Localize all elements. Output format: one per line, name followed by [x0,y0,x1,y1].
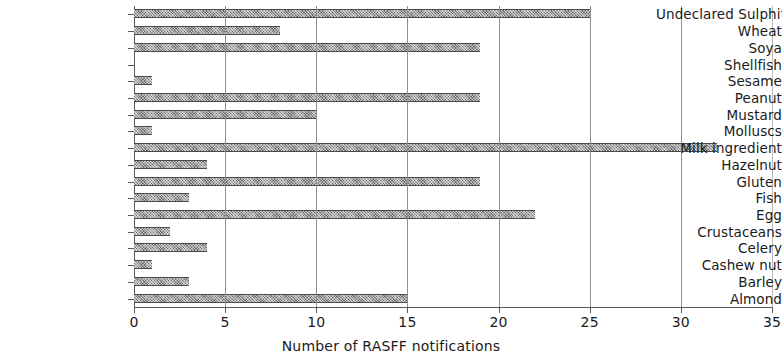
x-tick-mark-15 [407,307,408,313]
x-tick-label-30: 30 [672,314,690,330]
category-label-6: Mustard [656,108,782,122]
y-tick-mark-6 [128,115,134,116]
y-tick-mark-7 [128,131,134,132]
bar-9 [134,160,207,169]
bar-13 [134,227,170,236]
category-label-2: Soya [656,41,782,55]
bar-11 [134,193,189,202]
category-label-8: Milk ingredient [656,141,782,155]
category-label-13: Crustaceans [656,225,782,239]
category-label-14: Celery [656,241,782,255]
category-label-5: Peanut [656,91,782,105]
bar-chart: 05101520253035 Undeclared SulphiteWheatS… [0,0,782,361]
category-label-12: Egg [656,208,782,222]
gridline-10 [316,6,317,307]
y-tick-mark-5 [128,98,134,99]
gridline-25 [590,6,591,307]
y-tick-mark-4 [128,81,134,82]
bar-12 [134,210,535,219]
category-label-9: Hazelnut [656,158,782,172]
category-label-1: Wheat [656,24,782,38]
x-axis-line [134,307,773,308]
y-tick-mark-3 [128,65,134,66]
category-label-15: Cashew nut [656,258,782,272]
x-axis-title: Number of RASFF notifications [0,338,782,355]
y-tick-mark-12 [128,215,134,216]
bar-0 [134,9,590,18]
x-tick-mark-10 [316,307,317,313]
y-tick-mark-0 [128,14,134,15]
x-tick-label-35: 35 [763,314,781,330]
x-tick-mark-0 [134,307,135,313]
category-label-3: Shellfish [656,58,782,72]
x-tick-mark-35 [772,307,773,313]
y-tick-mark-9 [128,165,134,166]
x-tick-label-20: 20 [489,314,507,330]
x-tick-mark-5 [225,307,226,313]
category-label-11: Fish [656,191,782,205]
bar-5 [134,93,480,102]
bar-7 [134,126,152,135]
y-tick-mark-10 [128,182,134,183]
bar-10 [134,177,480,186]
gridline-5 [225,6,226,307]
y-tick-mark-8 [128,148,134,149]
bar-16 [134,277,189,286]
category-label-10: Gluten [656,175,782,189]
y-tick-mark-14 [128,248,134,249]
bar-4 [134,76,152,85]
x-tick-mark-25 [590,307,591,313]
y-tick-mark-17 [128,299,134,300]
category-label-17: Almond [656,292,782,306]
gridline-20 [499,6,500,307]
y-tick-mark-15 [128,265,134,266]
x-tick-label-25: 25 [581,314,599,330]
x-tick-mark-20 [499,307,500,313]
bar-2 [134,43,480,52]
bar-8 [134,143,717,152]
y-tick-mark-13 [128,232,134,233]
bar-17 [134,294,407,303]
bar-14 [134,243,207,252]
bar-15 [134,260,152,269]
x-tick-label-15: 15 [398,314,416,330]
category-label-0: Undeclared Sulphite [656,7,782,21]
x-tick-label-5: 5 [221,314,230,330]
x-tick-label-0: 0 [129,314,138,330]
category-label-7: Molluscs [656,124,782,138]
y-tick-mark-1 [128,31,134,32]
x-tick-mark-30 [681,307,682,313]
gridline-15 [407,6,408,307]
category-label-4: Sesame [656,74,782,88]
y-tick-mark-11 [128,198,134,199]
y-tick-mark-2 [128,48,134,49]
category-label-16: Barley [656,275,782,289]
bar-1 [134,26,280,35]
y-tick-mark-16 [128,282,134,283]
x-tick-label-10: 10 [307,314,325,330]
top-crop-band [0,0,782,4]
